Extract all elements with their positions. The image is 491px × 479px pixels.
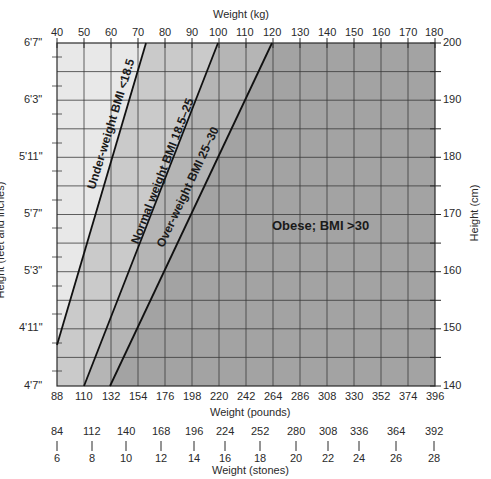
left-axis-title: Height (feet and inches) — [0, 182, 6, 299]
bottom-axis-title: Weight (pounds) — [210, 406, 291, 418]
right-axis-title: Height (cm) — [468, 185, 480, 242]
top-axis-title: Weight (kg) — [213, 8, 269, 20]
label-obese: Obese; BMI >30 — [272, 218, 369, 233]
stones-axis-title: Weight (stones) — [212, 464, 289, 476]
